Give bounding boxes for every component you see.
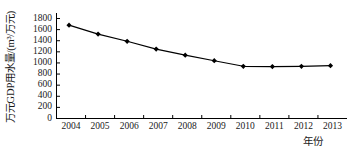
x-tick-label: 2013 bbox=[323, 121, 342, 132]
data-point-marker bbox=[328, 63, 333, 68]
x-tick-label: 2012 bbox=[294, 121, 313, 132]
x-axis-tick-labels: 2004200520062007200820092010201120122013 bbox=[0, 121, 355, 134]
x-tick-label: 2005 bbox=[91, 121, 110, 132]
data-point-marker bbox=[95, 31, 100, 36]
data-point-marker bbox=[125, 39, 130, 44]
x-axis-title: 年份 bbox=[303, 136, 323, 148]
x-tick-label: 2010 bbox=[236, 121, 255, 132]
data-point-marker bbox=[212, 58, 217, 63]
data-point-marker bbox=[66, 23, 71, 28]
x-tick-label: 2008 bbox=[178, 121, 197, 132]
x-tick-label: 2009 bbox=[207, 121, 226, 132]
x-tick-label: 2011 bbox=[265, 121, 284, 132]
y-axis-ticks bbox=[57, 19, 61, 119]
x-tick-label: 2007 bbox=[149, 121, 168, 132]
data-point-marker bbox=[241, 64, 246, 69]
data-point-markers bbox=[66, 23, 333, 70]
data-point-marker bbox=[183, 53, 188, 58]
water-use-per-10k-gdp-line-chart: 万元GDP用水量/(m³/万元) 02004006008001000120014… bbox=[0, 0, 355, 154]
data-point-marker bbox=[154, 46, 159, 51]
data-line bbox=[69, 25, 330, 66]
data-point-marker bbox=[299, 64, 304, 69]
x-tick-label: 2004 bbox=[62, 121, 81, 132]
x-axis-ticks bbox=[86, 115, 318, 119]
x-tick-label: 2006 bbox=[120, 121, 139, 132]
data-point-marker bbox=[270, 64, 275, 69]
